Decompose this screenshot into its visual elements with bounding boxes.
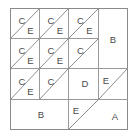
region-label-B-right: B <box>110 34 116 45</box>
region-label-D: D <box>82 78 89 89</box>
region-label-r2c2-C: C <box>48 45 55 56</box>
tiling-svg: C E C E C E C E C E C C E C B D E B E A <box>0 0 138 137</box>
region-label-r3c2-C: C <box>48 76 55 87</box>
region-label-B-bottom: B <box>38 109 44 120</box>
region-label-E-bottom: E <box>73 105 79 116</box>
region-label-E-right: E <box>103 75 109 86</box>
region-label-r2c1-C: C <box>19 45 26 56</box>
region-label-r1c3-C: C <box>77 15 84 26</box>
region-label-r3c1-C: C <box>19 76 26 87</box>
region-label-r1c2-E: E <box>57 25 63 36</box>
region-label-r1c1-C: C <box>19 15 26 26</box>
dissection-diagram: C E C E C E C E C E C C E C B D E B E A <box>0 0 138 137</box>
region-label-r1c2-C: C <box>48 15 55 26</box>
region-label-r2c3-C: C <box>77 45 84 56</box>
region-label-r2c1-E: E <box>27 55 33 66</box>
region-label-A: A <box>112 111 119 122</box>
region-label-r1c1-E: E <box>27 25 33 36</box>
region-label-r2c2-E: E <box>57 55 63 66</box>
region-label-r3c1-E: E <box>27 86 33 97</box>
region-label-r1c3-E: E <box>86 25 92 36</box>
